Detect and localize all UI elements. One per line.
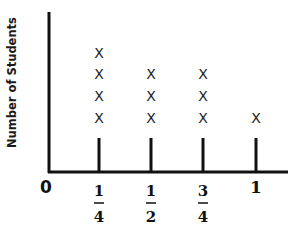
x-tick-label-quarter-denominator: 4 [94, 208, 104, 226]
x-marker: X [198, 110, 208, 126]
y-axis-label: Number of Students [5, 17, 19, 148]
x-marker: X [146, 110, 156, 126]
x-marker: X [198, 88, 208, 104]
x-tick-label-quarter-numerator: 1 [94, 182, 104, 200]
x-marker: X [146, 66, 156, 82]
x-tick-label-half-denominator: 2 [146, 208, 156, 226]
x-tick-label-0: 0 [40, 177, 52, 197]
dot-plot: XXXXXXXXXXX 01412341 [0, 0, 290, 233]
x-tick-label-1: 1 [250, 177, 262, 197]
x-marker: X [94, 45, 104, 61]
data-markers: XXXXXXXXXXX [94, 45, 261, 126]
x-marker: X [251, 110, 261, 126]
x-tick-labels: 01412341 [40, 177, 262, 226]
x-tick-label-half-numerator: 1 [146, 182, 156, 200]
x-marker: X [146, 88, 156, 104]
x-marker: X [198, 66, 208, 82]
x-tick-label-three-quarters-numerator: 3 [198, 182, 208, 200]
tick-marks [99, 138, 256, 172]
x-marker: X [94, 110, 104, 126]
x-marker: X [94, 88, 104, 104]
x-tick-label-three-quarters-denominator: 4 [198, 208, 208, 226]
x-marker: X [94, 66, 104, 82]
